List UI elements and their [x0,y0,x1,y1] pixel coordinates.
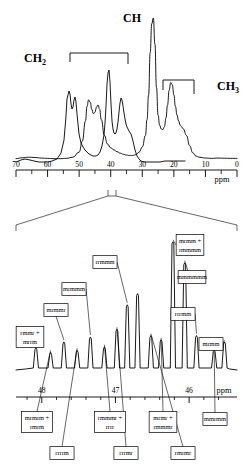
leader-mrmmm [86,289,90,335]
main-axis-tick-labels: 706050403020100 [12,160,239,169]
label-mrmmr-text: mrmmr [46,306,66,313]
figure-canvas: CH2 CH CH3 706050403020100 ppm [0,0,251,473]
label-mrmm-text: mrmm [202,340,219,347]
label-mrmrm-rmrm-text: mrmrm + [25,414,50,421]
label-mrmr-rmmmr-text: rmmmr [153,423,173,430]
axis-tick-label: 46 [185,386,193,395]
label-rrrrm-text: rrrrm [55,449,69,456]
label-mmrmm-text: mmrmm [204,415,226,422]
label-ch2: CH2 [24,51,128,67]
expansion-fan [16,190,237,231]
main-ppm-label: ppm [215,175,230,184]
main-axis: 706050403020100 ppm [12,160,239,184]
leader-mmrmm [214,348,215,413]
label-mrmrm-rmrm-text: rmrm [30,423,44,430]
ch2-bracket [70,53,128,64]
label-rmmmr-rrrr-text: rrrr [106,423,115,430]
label-mrmr-rmmmr-text: mrmr + [153,414,173,421]
axis-tick-label: 50 [75,160,83,169]
ch3-label-text: CH3 [217,79,239,95]
ch2-label-text: CH2 [24,51,46,67]
expansion-spectrum-group: 484746 ppm rmmr +mrrmmrmmrmrmmmrrmmmmrmm… [16,235,237,460]
label-rrrmr-text: rrrmr [119,449,133,456]
label-ch: CH [123,11,142,25]
label-ch3: CH3 [163,79,239,95]
axis-tick-label: 10 [202,160,210,169]
label-rmmmr-rrrr-text: rmmmr + [98,414,123,421]
axis-tick-label: 40 [107,160,115,169]
label-mrmm-rmmmm-text: rmmmm [179,246,201,253]
label-rmmr-mrrm-text: rmmr + [20,329,40,336]
leader-rmmmr-rrrr [104,345,110,412]
label-mmmmmm-text: mmmmmm [177,273,207,280]
expansion-axis: 484746 ppm [16,386,237,403]
axis-tick-label: 20 [170,160,178,169]
fan-line-left [16,196,108,225]
leader-mrmmr [56,316,64,340]
label-rrrmm-text: rrrmm [175,310,191,317]
leader-mrmrm-rmrm [37,350,51,411]
axis-tick-label: 70 [12,160,20,169]
label-rmrmr-text: rmrmr [175,449,192,456]
expansion-axis-tick-labels: 484746 [38,386,193,395]
axis-tick-label: 60 [44,160,52,169]
ch3-bracket [163,80,194,94]
ch-label-text: CH [123,11,142,25]
axis-tick-label: 30 [138,160,146,169]
expansion-labels-bottom: mrmrm +rmrmrrrrmrmmmr +rrrrrrrmrmrmr +rm… [21,412,227,460]
leader-rrmmm [117,262,127,303]
main-spectrum-group: CH2 CH CH3 706050403020100 ppm [12,11,239,231]
main-spectrum-curve [16,18,237,159]
leader-rrrrm [62,348,77,446]
nmr-figure: CH2 CH CH3 706050403020100 ppm [0,0,251,473]
label-rrmmm-text: rrmmm [95,258,114,265]
label-mrmm-rmmmm-text: mrmm + [179,237,202,244]
label-rmmr-mrrm-text: mrrm [23,338,37,345]
main-axis-ticks [16,170,237,177]
expansion-ppm-label: ppm [217,386,232,395]
expansion-labels-top: rmmr +mrrmmrmmrmrmmmrrmmmmrmm +rmmmmmmmm… [16,235,223,351]
label-mrmmm-text: mrmmm [63,285,85,292]
fan-line-right [116,196,237,225]
axis-tick-label: 47 [112,386,120,395]
axis-tick-label: 0 [235,160,239,169]
